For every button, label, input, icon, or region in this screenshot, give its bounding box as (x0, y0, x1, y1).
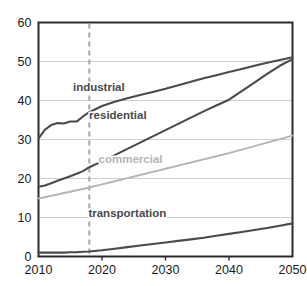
y-tick-label-50: 50 (18, 55, 32, 69)
x-tick-label-2040: 2040 (215, 263, 243, 277)
series-label-residential: residential (89, 109, 147, 121)
y-tick-label-40: 40 (18, 94, 32, 108)
y-tick-label-60: 60 (18, 16, 32, 30)
x-tick-label-2010: 2010 (25, 263, 53, 277)
y-tick-label-30: 30 (18, 133, 32, 147)
y-tick-label-10: 10 (18, 211, 32, 225)
x-tick-label-2020: 2020 (88, 263, 116, 277)
series-label-industrial: industrial (73, 81, 125, 93)
chart-container: 0102030405060 20102020203020402050 indus… (0, 0, 307, 286)
x-tick-label-2050: 2050 (279, 263, 307, 277)
y-tick-label-20: 20 (18, 172, 32, 186)
x-tick-label-2030: 2030 (152, 263, 180, 277)
series-label-commercial: commercial (99, 153, 163, 165)
series-label-transportation: transportation (88, 207, 166, 219)
line-chart: 0102030405060 20102020203020402050 indus… (0, 0, 307, 286)
